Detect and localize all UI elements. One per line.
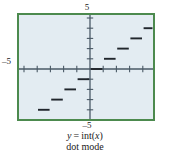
axis-label-x-min: –5 — [2, 57, 11, 66]
caption-mode: dot mode — [0, 141, 170, 152]
axis-label-y-min: –5 — [0, 121, 170, 130]
axis-ticks — [24, 18, 143, 110]
figure-caption: y=int(x) dot mode — [0, 130, 170, 152]
caption-var-y: y — [67, 130, 71, 141]
step-function-plot — [19, 15, 153, 119]
axis-label-y-max: 5 — [0, 3, 170, 12]
caption-func-name: int( — [81, 130, 95, 141]
caption-paren-close: ) — [100, 130, 103, 141]
caption-equals: = — [72, 130, 82, 141]
plot-area — [19, 15, 153, 119]
graphing-calculator-figure: 5 –5 –5 y=int(x) dot mode — [0, 0, 170, 164]
caption-equation: y=int(x) — [0, 130, 170, 141]
calculator-screen — [17, 13, 155, 121]
axis-lines — [19, 15, 153, 119]
